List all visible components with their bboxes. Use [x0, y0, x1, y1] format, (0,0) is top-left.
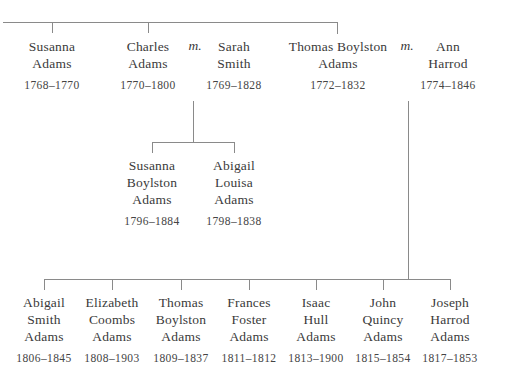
person-joseph-harrod-adams: Joseph Harrod Adams 1817–1853 [422, 294, 477, 365]
person-thomas-boylston-adams-jr: Thomas Boylston Adams 1809–1837 [153, 294, 208, 365]
person-isaac-hull-adams: Isaac Hull Adams 1813–1900 [288, 294, 343, 365]
tick-c7 [450, 279, 451, 290]
charles-children-line [152, 142, 235, 143]
tick-susanna-b [152, 142, 153, 153]
person-thomas-boylston-adams: Thomas Boylston Adams 1772–1832 [289, 38, 388, 92]
tick-c3 [181, 279, 182, 290]
tick-c4 [249, 279, 250, 290]
person-frances-foster-adams: Frances Foster Adams 1811–1812 [222, 294, 277, 365]
thomas-descent-line [408, 101, 409, 279]
person-charles-adams: Charles Adams 1770–1800 [120, 38, 175, 92]
tick-c2 [112, 279, 113, 290]
tick-abigail-l [234, 142, 235, 153]
tick-charles [148, 22, 149, 33]
charles-descent-line [193, 101, 194, 142]
person-elizabeth-coombs-adams: Elizabeth Coombs Adams 1808–1903 [84, 294, 139, 365]
person-susanna-adams: Susanna Adams 1768–1770 [24, 38, 79, 92]
tick-thomas [337, 22, 338, 34]
person-susanna-boylston-adams: Susanna Boylston Adams 1796–1884 [124, 157, 179, 228]
thomas-children-line [44, 279, 451, 280]
person-abigail-louisa-adams: Abigail Louisa Adams 1798–1838 [206, 157, 261, 228]
tick-c6 [383, 279, 384, 290]
tick-susanna [52, 22, 53, 33]
tick-c5 [316, 279, 317, 290]
tick-c1 [44, 279, 45, 290]
person-john-quincy-adams: John Quincy Adams 1815–1854 [355, 294, 410, 365]
marriage-symbol-thomas: m. [400, 38, 413, 54]
person-abigail-smith-adams: Abigail Smith Adams 1806–1845 [16, 294, 71, 365]
sibling-line-top [3, 22, 338, 23]
marriage-symbol-charles: m. [188, 38, 201, 54]
person-sarah-smith: Sarah Smith 1769–1828 [206, 38, 261, 92]
person-ann-harrod: Ann Harrod 1774–1846 [420, 38, 475, 92]
